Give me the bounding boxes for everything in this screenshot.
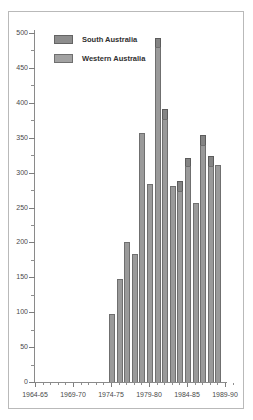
x-tick-major xyxy=(187,383,188,387)
y-tick-label-wrap: 350 xyxy=(0,134,28,142)
y-tick-minor xyxy=(31,85,35,86)
bar-segment-western-australia xyxy=(193,203,199,382)
y-tick-label-wrap: 250 xyxy=(0,204,28,212)
y-tick-label: 500 xyxy=(1,29,28,36)
bar xyxy=(117,279,123,382)
y-tick-label: 200 xyxy=(1,238,28,245)
x-tick-minor xyxy=(217,383,218,385)
bar xyxy=(162,109,168,382)
y-tick-label-wrap: 500 xyxy=(0,29,28,37)
bar-segment-south-australia xyxy=(177,181,183,191)
y-tick-major xyxy=(29,33,35,34)
x-tick-minor xyxy=(172,383,173,385)
legend-item-south-australia: South Australia xyxy=(54,33,164,48)
bar-segment-western-australia xyxy=(208,166,214,382)
y-tick-label: 50 xyxy=(1,343,28,350)
x-tick-minor xyxy=(119,383,120,385)
x-tick-minor xyxy=(126,383,127,385)
x-tick-minor xyxy=(43,383,44,385)
y-tick-label-wrap: 0 xyxy=(0,378,28,386)
bar xyxy=(177,181,183,382)
y-tick-major xyxy=(29,347,35,348)
bar-segment-western-australia xyxy=(177,191,183,382)
y-tick-minor xyxy=(31,155,35,156)
bar xyxy=(124,242,130,382)
y-tick-label-wrap: 450 xyxy=(0,64,28,72)
bar-segment-western-australia xyxy=(185,166,191,382)
x-tick-major xyxy=(35,383,36,387)
y-tick-label-wrap: 100 xyxy=(0,308,28,316)
y-tick-major xyxy=(29,277,35,278)
y-tick-label-wrap: 150 xyxy=(0,273,28,281)
bar xyxy=(185,158,191,382)
x-tick-minor xyxy=(58,383,59,385)
bar-segment-south-australia xyxy=(162,109,168,119)
legend-label-south-australia: South Australia xyxy=(82,33,137,46)
legend-swatch-icon-south-australia xyxy=(54,35,73,44)
y-tick-label: 350 xyxy=(1,134,28,141)
x-tick-minor xyxy=(233,383,234,385)
y-tick-label-wrap: 300 xyxy=(0,169,28,177)
y-tick-label: 400 xyxy=(1,99,28,106)
x-tick-major xyxy=(149,383,150,387)
x-tick-minor xyxy=(65,383,66,385)
x-tick-major xyxy=(111,383,112,387)
y-tick-major xyxy=(29,68,35,69)
y-tick-major xyxy=(29,138,35,139)
x-tick-label: 1989-90 xyxy=(203,390,247,399)
x-tick-minor xyxy=(210,383,211,385)
y-tick-label: 450 xyxy=(1,64,28,71)
bar-segment-south-australia xyxy=(185,158,191,166)
bar xyxy=(147,184,153,382)
bar xyxy=(170,186,176,382)
bar-segment-western-australia xyxy=(162,119,168,382)
bar-segment-western-australia xyxy=(215,165,221,382)
y-tick-minor xyxy=(31,260,35,261)
y-tick-label-wrap: 50 xyxy=(0,343,28,351)
y-tick-label-wrap: 200 xyxy=(0,238,28,246)
legend-item-western-australia: Western Australia xyxy=(54,52,164,67)
bar xyxy=(132,254,138,382)
bar-segment-western-australia xyxy=(117,279,123,382)
y-tick-label-wrap: 400 xyxy=(0,99,28,107)
bar-segment-western-australia xyxy=(124,242,130,382)
bar-segment-western-australia xyxy=(139,133,145,382)
bar-segment-western-australia xyxy=(109,314,115,382)
x-tick-minor xyxy=(96,383,97,385)
y-tick-minor xyxy=(31,50,35,51)
y-tick-major xyxy=(29,173,35,174)
y-tick-major xyxy=(29,103,35,104)
x-tick-minor xyxy=(134,383,135,385)
bar xyxy=(155,38,161,382)
x-tick-minor xyxy=(164,383,165,385)
bar xyxy=(208,156,214,382)
y-tick-minor xyxy=(31,120,35,121)
bar-segment-western-australia xyxy=(132,254,138,382)
bar xyxy=(200,135,206,382)
y-tick-minor xyxy=(31,225,35,226)
y-tick-minor xyxy=(31,190,35,191)
bar xyxy=(109,314,115,382)
x-tick-minor xyxy=(195,383,196,385)
legend-label-western-australia: Western Australia xyxy=(82,52,145,65)
x-tick-minor xyxy=(141,383,142,385)
y-tick-minor xyxy=(31,330,35,331)
bar-segment-western-australia xyxy=(155,47,161,382)
legend-swatch-icon-western-australia xyxy=(54,54,73,63)
x-tick-major xyxy=(225,383,226,387)
x-tick-minor xyxy=(202,383,203,385)
x-tick-label-wrap: 1989-90 xyxy=(203,390,247,399)
bar xyxy=(193,203,199,382)
x-axis-spine xyxy=(34,382,227,383)
y-tick-label: 0 xyxy=(1,378,28,385)
bar xyxy=(139,133,145,382)
y-tick-label: 250 xyxy=(1,204,28,211)
chart-legend: South Australia Western Australia xyxy=(54,33,164,71)
chart-figure: 050100150200250300350400450500 1964-6519… xyxy=(0,0,253,420)
x-tick-minor xyxy=(88,383,89,385)
y-tick-major xyxy=(29,312,35,313)
bar-segment-western-australia xyxy=(200,145,206,382)
x-tick-minor xyxy=(103,383,104,385)
bar xyxy=(215,165,221,382)
x-tick-minor xyxy=(50,383,51,385)
